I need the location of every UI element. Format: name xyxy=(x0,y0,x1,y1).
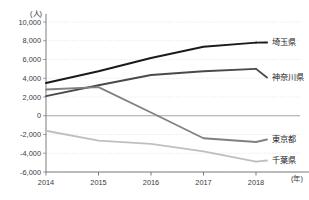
y-axis-unit-label: (人) xyxy=(30,9,42,18)
series-line-千葉県 xyxy=(46,131,256,162)
gridlines-group xyxy=(43,22,300,172)
y-tick-label: 0 xyxy=(37,111,41,120)
series-leader-東京都 xyxy=(256,140,267,143)
y-tick-label: 8,000 xyxy=(23,36,42,45)
x-tick-label: 2016 xyxy=(143,178,159,187)
series-line-埼玉県 xyxy=(46,43,256,83)
series-line-東京都 xyxy=(46,87,256,142)
series-line-神奈川県 xyxy=(46,69,256,96)
series-label-千葉県: 千葉県 xyxy=(272,155,296,165)
y-tick-label: -2,000 xyxy=(20,130,41,139)
x-axis-unit-label: (年) xyxy=(291,174,303,183)
line-chart: 10,0008,0006,0004,0002,0000-2,000-4,000-… xyxy=(0,0,309,200)
x-axis-ticklabels: 20142015201620172018 xyxy=(38,172,264,187)
series-label-東京都: 東京都 xyxy=(272,134,296,144)
x-tick-label: 2015 xyxy=(90,178,106,187)
series-leader-神奈川県 xyxy=(256,69,267,78)
x-tick-label: 2018 xyxy=(248,178,264,187)
data-series-group xyxy=(46,43,267,162)
y-tick-label: -6,000 xyxy=(20,168,41,177)
y-tick-label: 2,000 xyxy=(23,93,42,102)
series-label-神奈川県: 神奈川県 xyxy=(272,72,304,82)
x-tick-label: 2017 xyxy=(195,178,211,187)
y-tick-label: -4,000 xyxy=(20,149,41,158)
y-axis-ticklabels: 10,0008,0006,0004,0002,0000-2,000-4,000-… xyxy=(18,18,41,177)
y-tick-label: 10,000 xyxy=(18,18,41,27)
y-tick-label: 4,000 xyxy=(23,74,42,83)
chart-canvas: 10,0008,0006,0004,0002,0000-2,000-4,000-… xyxy=(0,0,309,200)
y-tick-label: 6,000 xyxy=(23,55,42,64)
series-labels-group: 埼玉県神奈川県東京都千葉県 xyxy=(272,37,304,165)
series-label-埼玉県: 埼玉県 xyxy=(272,37,296,47)
series-leader-千葉県 xyxy=(256,161,267,162)
x-tick-label: 2014 xyxy=(38,178,54,187)
